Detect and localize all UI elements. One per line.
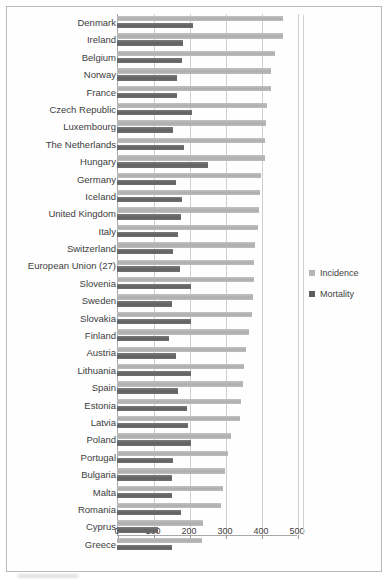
row-bars <box>117 49 382 66</box>
category-label: Spain <box>92 379 116 396</box>
row-bars <box>117 449 382 466</box>
bar-incidence <box>117 190 260 195</box>
row-bars <box>117 536 382 553</box>
chart-row: France <box>0 84 389 101</box>
row-bars <box>117 484 382 501</box>
category-label: Germany <box>77 171 116 188</box>
bar-incidence <box>117 225 258 230</box>
category-label: The Netherlands <box>46 136 116 153</box>
chart-row: Ireland <box>0 31 389 48</box>
chart-row: Estonia <box>0 397 389 414</box>
chart-row: Slovakia <box>0 310 389 327</box>
category-label: Malta <box>93 484 116 501</box>
bar-incidence <box>117 173 261 178</box>
bar-incidence <box>117 242 255 247</box>
chart-row: Malta <box>0 484 389 501</box>
chart-row: Czech Republic <box>0 101 389 118</box>
category-label: Austria <box>86 344 116 361</box>
row-bars <box>117 327 382 344</box>
square-swatch-icon <box>309 291 315 297</box>
bar-mortality <box>117 371 191 376</box>
bar-mortality <box>117 58 182 63</box>
row-bars <box>117 14 382 31</box>
legend-label: Mortality <box>320 289 354 299</box>
bar-mortality <box>117 545 172 550</box>
bar-mortality <box>117 249 173 254</box>
bar-incidence <box>117 120 266 125</box>
bar-mortality <box>117 336 169 341</box>
bar-incidence <box>117 364 244 369</box>
row-bars <box>117 171 382 188</box>
bar-mortality <box>117 23 193 28</box>
bar-incidence <box>117 51 275 56</box>
bar-mortality <box>117 180 176 185</box>
chart-row: Austria <box>0 344 389 361</box>
bar-mortality <box>117 162 208 167</box>
row-bars <box>117 84 382 101</box>
row-bars <box>117 344 382 361</box>
square-swatch-icon <box>309 270 315 276</box>
bar-mortality <box>117 493 172 498</box>
bar-incidence <box>117 416 240 421</box>
category-label: Italy <box>99 223 116 240</box>
category-label: European Union (27) <box>28 257 116 274</box>
category-label: Slovenia <box>80 275 116 292</box>
bar-incidence <box>117 16 283 21</box>
bar-mortality <box>117 458 173 463</box>
bar-incidence <box>117 68 271 73</box>
category-label: Cyprus <box>86 518 116 535</box>
bar-mortality <box>117 319 191 324</box>
chart-row: Romania <box>0 501 389 518</box>
bar-incidence <box>117 486 223 491</box>
category-label: Norway <box>84 66 116 83</box>
bar-incidence <box>117 33 283 38</box>
row-bars <box>117 118 382 135</box>
category-label: Sweden <box>82 292 116 309</box>
row-bars <box>117 397 382 414</box>
category-label: France <box>86 84 116 101</box>
bar-incidence <box>117 155 265 160</box>
row-bars <box>117 205 382 222</box>
row-bars <box>117 153 382 170</box>
bar-mortality <box>117 145 184 150</box>
bar-mortality <box>117 388 178 393</box>
chart-row: Portugal <box>0 449 389 466</box>
category-label: Greece <box>85 536 116 553</box>
bar-incidence <box>117 103 267 108</box>
category-label: Czech Republic <box>49 101 116 118</box>
chart-row: Cyprus <box>0 518 389 535</box>
row-bars <box>117 431 382 448</box>
bar-mortality <box>117 440 191 445</box>
category-label: Belgium <box>82 49 116 66</box>
bar-incidence <box>117 520 203 525</box>
bar-incidence <box>117 399 241 404</box>
category-label: Switzerland <box>67 240 116 257</box>
row-bars <box>117 101 382 118</box>
row-bars <box>117 379 382 396</box>
bar-mortality <box>117 266 180 271</box>
chart-row: Finland <box>0 327 389 344</box>
legend-label: Incidence <box>320 268 359 278</box>
row-bars <box>117 188 382 205</box>
bar-incidence <box>117 538 202 543</box>
chart-row: The Netherlands <box>0 136 389 153</box>
bar-mortality <box>117 110 192 115</box>
bar-incidence <box>117 329 249 334</box>
legend-item-mortality[interactable]: Mortality <box>309 289 359 299</box>
chart-row: United Kingdom <box>0 205 389 222</box>
bar-incidence <box>117 294 253 299</box>
bar-mortality <box>117 284 191 289</box>
chart-row: Germany <box>0 171 389 188</box>
category-label: Romania <box>78 501 116 518</box>
legend-item-incidence[interactable]: Incidence <box>309 268 359 278</box>
chart-row: Belgium <box>0 49 389 66</box>
chart-legend: IncidenceMortality <box>309 268 359 310</box>
bar-incidence <box>117 207 259 212</box>
bar-incidence <box>117 347 246 352</box>
bar-mortality <box>117 93 177 98</box>
bar-incidence <box>117 86 271 91</box>
bar-mortality <box>117 510 181 515</box>
bar-mortality <box>117 301 172 306</box>
scan-artifact <box>18 574 78 578</box>
category-label: Portugal <box>81 449 116 466</box>
